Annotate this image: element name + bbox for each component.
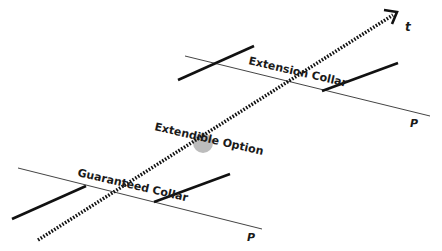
extension-collar-label: Extension Collar <box>247 54 349 89</box>
extendible-option-diagram: t Extension Collar P Extendible Option G… <box>0 0 442 251</box>
guaranteed-collar-label: Guaranteed Collar <box>76 166 189 204</box>
upper-payoff-left-segment <box>178 46 254 80</box>
upper-price-axis-label: P <box>410 117 418 130</box>
lower-price-axis-label: P <box>247 231 255 244</box>
time-axis-label: t <box>405 20 412 34</box>
time-axis <box>38 15 393 240</box>
extendible-option-label: Extendible Option <box>153 120 264 158</box>
lower-payoff-left-segment <box>12 186 86 219</box>
